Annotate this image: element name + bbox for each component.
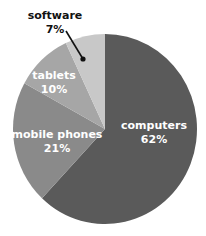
label-mobile-pct: 21% — [44, 142, 70, 155]
label-mobile-name: mobile phones — [12, 128, 103, 141]
label-computers-name: computers — [121, 119, 187, 132]
label-software-pct: 7% — [46, 23, 65, 36]
label-tablets-name: tablets — [32, 69, 76, 82]
software-leader-dot — [80, 56, 85, 61]
label-software-name: software — [28, 9, 83, 22]
pie-chart: software 7% tablets 10% mobile phones 21… — [0, 0, 206, 236]
label-tablets-pct: 10% — [41, 83, 67, 96]
label-computers-pct: 62% — [141, 133, 167, 146]
